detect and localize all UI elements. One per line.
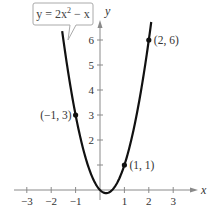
x-tick-label: −3	[21, 195, 33, 207]
x-tick-label: −1	[70, 195, 82, 207]
x-axis-arrow-icon	[190, 188, 198, 193]
x-axis-label: x	[200, 183, 207, 197]
x-tick-label: 1	[122, 195, 128, 207]
y-axis-arrow-icon	[98, 20, 103, 28]
labeled-points: (−1, 3)(1, 1)(2, 6)	[40, 34, 179, 172]
x-tick-label: 2	[146, 195, 152, 207]
y-tick-label: 5	[89, 59, 95, 71]
point-label: (1, 1)	[129, 159, 154, 172]
y-axis-label: y	[104, 4, 111, 18]
labeled-point: (2, 6)	[146, 34, 179, 47]
labeled-point: (−1, 3)	[40, 109, 78, 122]
point-label: (2, 6)	[154, 34, 179, 47]
x-tick-label: −2	[45, 195, 57, 207]
point-marker	[73, 112, 78, 117]
parabola-chart: xy −3−2−112323456 (−1, 3)(1, 1)(2, 6) y …	[0, 0, 210, 212]
equation-label: y = 2x2 − x	[36, 6, 90, 21]
y-tick-label: 2	[89, 134, 95, 146]
point-marker	[146, 37, 151, 42]
x-tick-label: 3	[170, 195, 176, 207]
point-marker	[122, 162, 127, 167]
point-label: (−1, 3)	[40, 109, 72, 122]
y-tick-label: 4	[89, 84, 95, 96]
y-tick-label: 6	[89, 34, 95, 46]
y-tick-label: 3	[89, 109, 95, 121]
